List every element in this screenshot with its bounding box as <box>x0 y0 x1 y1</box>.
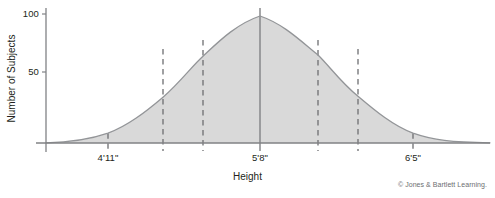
x-tick-label-4ft11in: 4'11" <box>78 152 138 163</box>
y-tick-label-100: 100 <box>8 8 39 19</box>
chart-figure: 100 50 4'11" 5'8" 6'5" Height Number of … <box>0 0 495 198</box>
x-tick-label-5ft8in: 5'8" <box>230 152 290 163</box>
x-tick-label-6ft5in: 6'5" <box>383 152 443 163</box>
distribution-area-fill <box>46 16 490 143</box>
y-axis-title: Number of Subjects <box>6 24 17 134</box>
normal-distribution-plot <box>0 0 495 198</box>
copyright-notice: © Jones & Bartlett Learning. <box>398 181 487 188</box>
